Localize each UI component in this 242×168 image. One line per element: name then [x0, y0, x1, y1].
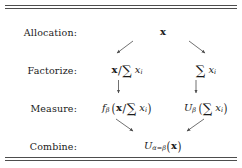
- paren-open: (: [167, 140, 171, 153]
- paren-open: (: [198, 102, 202, 115]
- paren-open: (: [111, 102, 115, 115]
- paren-close: ): [224, 102, 228, 115]
- vector-x-symbol: x: [160, 27, 166, 37]
- row-cells-factorize: x / ∑ i xi ∑ i: [84, 60, 242, 80]
- summation-group: ∑ i: [196, 64, 208, 77]
- summation-group: ∑ i: [127, 102, 139, 115]
- allocation-decomposition-figure: Allocation: x Factorize: x / ∑: [0, 0, 242, 168]
- top-rule-line-2: [5, 8, 237, 9]
- summation-group: ∑ i: [122, 64, 134, 77]
- element-index: i: [214, 69, 216, 76]
- bottom-rule-line-2: [5, 160, 237, 161]
- beta-subscript: β: [192, 107, 196, 114]
- beta-subscript: β: [106, 107, 110, 114]
- sum-index: i: [130, 73, 132, 79]
- top-rule: [5, 5, 237, 9]
- table-row: Measure: fβ ( x / ∑ i xi: [0, 98, 242, 118]
- row-cells-measure: fβ ( x / ∑ i xi ): [84, 98, 242, 118]
- top-rule-line-1: [5, 5, 237, 6]
- expression-total-sum: ∑ i xi: [170, 60, 242, 80]
- bottom-rule-line-1: [5, 157, 237, 158]
- sum-index: i: [210, 111, 212, 117]
- row-cells-allocation: x: [84, 22, 242, 42]
- alpha-equals-beta-subscript: α=β: [152, 145, 166, 152]
- table-row: Combine: Uα=β ( x ): [0, 136, 242, 156]
- function-u: U: [144, 141, 152, 151]
- sum-index: i: [203, 73, 205, 79]
- element-index: i: [140, 69, 142, 76]
- expression-allocation: x: [84, 22, 242, 42]
- paren-close: ): [178, 140, 182, 153]
- table-row: Allocation: x: [0, 22, 242, 42]
- vector-x-symbol: x: [171, 141, 177, 151]
- table-row: Factorize: x / ∑ i xi: [0, 60, 242, 80]
- row-cells-combine: Uα=β ( x ): [84, 136, 242, 156]
- table-grid: Allocation: x Factorize: x / ∑: [0, 12, 242, 156]
- expression-normalized-allocation: x / ∑ i xi: [84, 60, 170, 80]
- bottom-rule: [5, 157, 237, 161]
- row-label-combine: Combine:: [0, 141, 84, 152]
- expression-fairness-measure: fβ ( x / ∑ i xi ): [84, 98, 170, 118]
- summation-group: ∑ i: [203, 102, 215, 115]
- sum-index: i: [134, 111, 136, 117]
- row-label-factorize: Factorize:: [0, 65, 84, 76]
- paren-close: ): [148, 102, 152, 115]
- expression-combined-utility: Uα=β ( x ): [84, 136, 242, 156]
- expression-utility-measure: Uβ ( ∑ i xi ): [170, 98, 242, 118]
- row-label-measure: Measure:: [0, 103, 84, 114]
- row-label-allocation: Allocation:: [0, 27, 84, 38]
